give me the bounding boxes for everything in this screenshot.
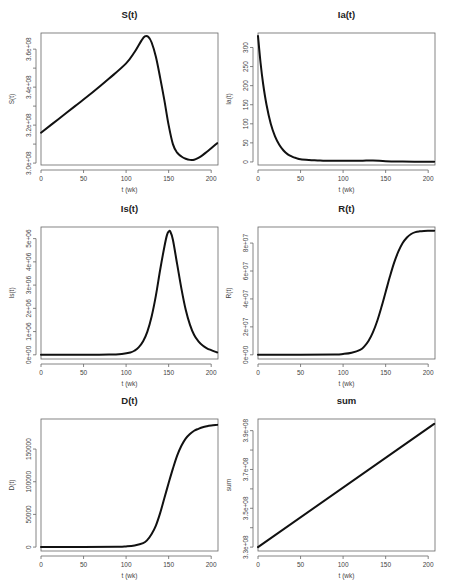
series-line — [258, 231, 434, 355]
x-axis-label: t (wk) — [339, 380, 355, 388]
y-tick-label: 100 — [242, 118, 249, 129]
y-tick-label: 200 — [242, 80, 249, 91]
series-line — [258, 424, 434, 547]
x-tick-label: 100 — [338, 369, 349, 376]
y-tick-label: 3.3e+08 — [242, 535, 249, 559]
y-tick-label: 250 — [242, 61, 249, 72]
x-tick-label: 200 — [423, 175, 434, 182]
x-axis-label: t (wk) — [339, 572, 355, 580]
x-tick-label: 150 — [380, 369, 391, 376]
x-tick-label: 0 — [39, 175, 43, 182]
y-axis: 0e+001e+062e+063e+064e+065e+06Is(t) — [8, 229, 36, 364]
x-tick-label: 0 — [256, 175, 260, 182]
chart-title: D(t) — [121, 395, 137, 406]
x-tick-label: 50 — [297, 175, 305, 182]
y-tick-label: 4e+07 — [242, 289, 249, 308]
x-tick-label: 200 — [206, 369, 217, 376]
plot-frame — [41, 227, 218, 359]
chart-title: Ia(t) — [338, 9, 355, 20]
y-tick-label: 5e+06 — [25, 229, 32, 248]
x-axis: 050100150200t (wk) — [256, 170, 434, 194]
x-axis-label: t (wk) — [339, 186, 355, 194]
x-tick-label: 0 — [256, 369, 260, 376]
panel-is: Is(t)050100150200t (wk)0e+001e+062e+063e… — [8, 203, 218, 388]
y-tick-label: 6e+07 — [242, 261, 249, 280]
x-tick-label: 100 — [121, 175, 132, 182]
x-axis: 050100150200t (wk) — [256, 364, 434, 388]
y-tick-label: 2e+06 — [25, 299, 32, 318]
y-axis-label: Is(t) — [8, 287, 16, 298]
series-line — [41, 231, 217, 355]
y-axis-label: S(t) — [8, 94, 16, 104]
x-axis-label: t (wk) — [122, 572, 138, 580]
panel-d: D(t)050100150200t (wk)050000100000150000… — [8, 395, 218, 580]
series-line — [258, 36, 434, 162]
x-tick-label: 100 — [121, 561, 132, 568]
y-tick-label: 3.7e+08 — [242, 457, 249, 481]
x-axis: 050100150200t (wk) — [256, 556, 434, 580]
series-line — [41, 36, 217, 160]
x-tick-label: 200 — [423, 561, 434, 568]
y-tick-label: 3.4e+08 — [25, 75, 32, 99]
x-tick-label: 50 — [297, 561, 305, 568]
y-tick-label: 3.5e+08 — [242, 496, 249, 520]
chart-title: R(t) — [338, 203, 354, 214]
y-axis: 050000100000150000D(t) — [8, 438, 36, 549]
x-axis-label: t (wk) — [122, 380, 138, 388]
y-tick-label: 1e+06 — [25, 322, 32, 341]
x-tick-label: 150 — [163, 175, 174, 182]
y-tick-label: 0e+00 — [25, 345, 32, 364]
y-tick-label: 3.6e+08 — [25, 37, 32, 61]
x-tick-label: 100 — [121, 369, 132, 376]
series-line — [41, 425, 217, 547]
y-tick-label: 4e+06 — [25, 252, 32, 271]
plot-frame — [258, 33, 435, 165]
figure: S(t)050100150200t (wk)3.0e+083.2e+083.4e… — [0, 0, 451, 587]
x-tick-label: 0 — [256, 561, 260, 568]
y-axis: 3.3e+083.5e+083.7e+083.9e+08sum — [225, 418, 253, 559]
y-tick-label: 150000 — [25, 438, 32, 460]
y-tick-label: 300 — [242, 42, 249, 53]
plot-frame — [41, 33, 218, 165]
y-axis: 3.0e+083.2e+083.4e+083.6e+08S(t) — [8, 37, 36, 175]
x-tick-label: 100 — [338, 561, 349, 568]
x-axis: 050100150200t (wk) — [39, 364, 217, 388]
y-tick-label: 0e+00 — [242, 345, 249, 364]
y-axis: 050100150200250300Ia(t) — [225, 42, 253, 164]
x-tick-label: 150 — [163, 369, 174, 376]
x-tick-label: 100 — [338, 175, 349, 182]
x-tick-label: 50 — [80, 369, 88, 376]
x-tick-label: 200 — [206, 175, 217, 182]
y-axis-label: sum — [225, 479, 232, 491]
y-axis-label: R(t) — [225, 288, 233, 299]
chart-title: Is(t) — [121, 203, 138, 214]
y-axis-label: D(t) — [8, 480, 16, 491]
chart-title: sum — [337, 395, 357, 406]
panel-sum: sum050100150200t (wk)3.3e+083.5e+083.7e+… — [225, 395, 435, 580]
x-tick-label: 50 — [297, 369, 305, 376]
y-tick-label: 0 — [25, 545, 32, 549]
chart-title: S(t) — [122, 9, 138, 20]
x-axis-label: t (wk) — [122, 186, 138, 194]
x-tick-label: 200 — [206, 561, 217, 568]
y-tick-label: 100000 — [25, 471, 32, 493]
y-axis-label: Ia(t) — [225, 93, 233, 105]
panel-s: S(t)050100150200t (wk)3.0e+083.2e+083.4e… — [8, 9, 218, 194]
x-tick-label: 50 — [80, 175, 88, 182]
x-axis: 050100150200t (wk) — [39, 170, 217, 194]
y-axis: 0e+002e+074e+076e+078e+07R(t) — [225, 234, 253, 364]
x-tick-label: 50 — [80, 561, 88, 568]
plot-frame — [41, 419, 218, 551]
plot-frame — [258, 227, 435, 359]
x-tick-label: 0 — [39, 369, 43, 376]
y-tick-label: 3.0e+08 — [25, 151, 32, 175]
x-tick-label: 150 — [380, 175, 391, 182]
y-tick-label: 50 — [242, 139, 249, 147]
y-tick-label: 8e+07 — [242, 234, 249, 253]
x-axis: 050100150200t (wk) — [39, 556, 217, 580]
y-tick-label: 3.2e+08 — [25, 113, 32, 137]
x-tick-label: 0 — [39, 561, 43, 568]
x-tick-label: 200 — [423, 369, 434, 376]
panel-r: R(t)050100150200t (wk)0e+002e+074e+076e+… — [225, 203, 435, 388]
x-tick-label: 150 — [380, 561, 391, 568]
